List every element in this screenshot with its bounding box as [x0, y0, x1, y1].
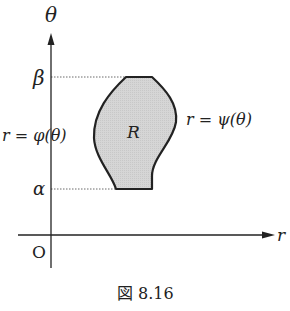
- figure-caption: 図 8.16: [117, 284, 174, 303]
- phi-curve-label: r = φ(θ): [2, 126, 67, 145]
- theta-axis-arrow-icon: [48, 33, 55, 45]
- r-axis-arrow-icon: [262, 232, 275, 239]
- origin-label: O: [32, 242, 46, 262]
- psi-curve-label: r = ψ(θ): [186, 110, 252, 129]
- theta-axis-label: θ: [45, 3, 57, 27]
- region-label: R: [126, 122, 140, 142]
- alpha-label: α: [33, 178, 45, 199]
- region-diagram: θ r O β α R r = φ(θ) r = ψ(θ) 図 8.16: [0, 0, 290, 311]
- beta-label: β: [32, 66, 45, 90]
- r-axis-label: r: [277, 225, 286, 245]
